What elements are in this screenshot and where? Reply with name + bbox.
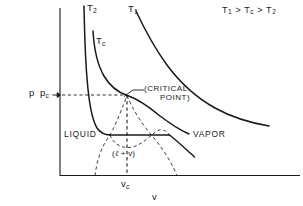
vc-tick-label: vc [121, 179, 130, 190]
isotherm-tc-label: Tc [96, 36, 106, 47]
isotherm-t1 [136, 11, 269, 126]
isotherm-t2-liquid-branch [84, 6, 110, 135]
two-phase-region-label: (ℓ + v) [112, 150, 135, 158]
isotherm-t2-label: T2 [87, 3, 97, 14]
liquid-region-label: LIQUID [64, 130, 97, 139]
temperature-inequality-note: T1 > Tc > T2 [222, 6, 276, 16]
pc-arrow-icon [53, 93, 61, 98]
phase-diagram-plot [0, 0, 303, 206]
phase-diagram-figure: p pc vc v T2 Tc T1 T1 > Tc > T2 (CRITICA… [0, 0, 303, 206]
x-axis-label: v [152, 192, 157, 202]
critical-point-label-line2: POINT) [160, 94, 190, 102]
isotherm-t2-vapor-branch [170, 135, 195, 157]
vapor-region-label: VAPOR [193, 130, 226, 139]
y-axis-label: p [29, 88, 34, 98]
spinodal-loop [110, 130, 170, 148]
pc-tick-label: pc [40, 88, 49, 99]
isotherm-tc [93, 31, 189, 134]
isotherm-t1-label: T1 [128, 4, 138, 15]
